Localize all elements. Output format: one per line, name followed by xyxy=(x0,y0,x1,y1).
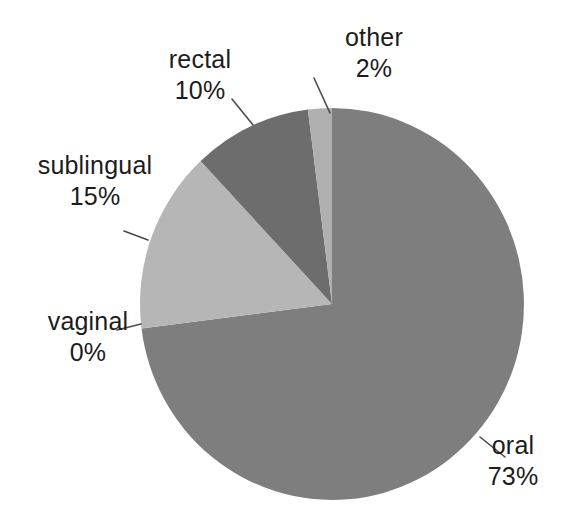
pie-label-sublingual-value: 15% xyxy=(10,181,180,212)
pie-label-rectal: rectal 10% xyxy=(140,44,260,105)
pie-label-other-value: 2% xyxy=(314,53,434,84)
pie-label-oral-name: oral xyxy=(458,430,568,461)
pie-chart: other 2% rectal 10% sublingual 15% vagin… xyxy=(0,0,579,527)
pie-label-sublingual-name: sublingual xyxy=(10,150,180,181)
pie-label-vaginal-name: vaginal xyxy=(18,306,158,337)
pie-label-oral-value: 73% xyxy=(458,461,568,492)
leader-line-other xyxy=(314,78,330,113)
pie-label-oral: oral 73% xyxy=(458,430,568,491)
leader-line-sublingual xyxy=(124,231,148,240)
pie-label-sublingual: sublingual 15% xyxy=(10,150,180,211)
pie-label-other-name: other xyxy=(314,22,434,53)
pie-label-vaginal: vaginal 0% xyxy=(18,306,158,367)
pie-label-other: other 2% xyxy=(314,22,434,83)
pie-label-rectal-value: 10% xyxy=(140,75,260,106)
pie-label-rectal-name: rectal xyxy=(140,44,260,75)
pie-label-vaginal-value: 0% xyxy=(18,337,158,368)
